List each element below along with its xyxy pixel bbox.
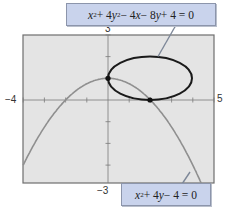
plot-area bbox=[0, 0, 235, 210]
plot-frame bbox=[23, 35, 214, 183]
y-min-label: −3 bbox=[97, 185, 108, 196]
parabola-equation-label: x2 + 4y − 4 = 0 bbox=[121, 183, 211, 206]
intersection-point-2-0 bbox=[147, 97, 152, 102]
x-min-label: −4 bbox=[5, 94, 16, 105]
eq1-term3: − 8 bbox=[141, 9, 156, 21]
eq1-term2: − 4 bbox=[120, 9, 135, 21]
eq1-term4: + 4 = 0 bbox=[161, 9, 194, 21]
eq2-term2: − 4 = 0 bbox=[164, 189, 197, 201]
eq1-term: + 4 bbox=[97, 9, 112, 21]
intersection-point-0-1 bbox=[105, 76, 110, 81]
eq2-term: + 4 bbox=[144, 189, 159, 201]
x-max-label: 5 bbox=[217, 93, 223, 104]
ellipse-equation-label: x2 + 4y2 − 4x − 8y + 4 = 0 bbox=[66, 3, 216, 26]
